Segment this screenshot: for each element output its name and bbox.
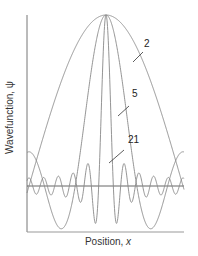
curve-21 (27, 15, 184, 223)
y-axis-label: Wavefunction, ψ (4, 63, 15, 173)
curve-label-5: 5 (132, 88, 138, 99)
leader-line-5 (118, 106, 129, 116)
curve-label-21: 21 (128, 134, 139, 145)
wavefunction-curves (27, 15, 184, 229)
leader-line-21 (109, 150, 124, 163)
curve-label-2: 2 (144, 38, 150, 49)
curve-5 (27, 15, 184, 229)
wavefunction-plot (0, 0, 198, 256)
x-variable: x (126, 236, 131, 247)
x-axis-label: Position, x (60, 236, 156, 247)
curve-2 (27, 15, 184, 193)
